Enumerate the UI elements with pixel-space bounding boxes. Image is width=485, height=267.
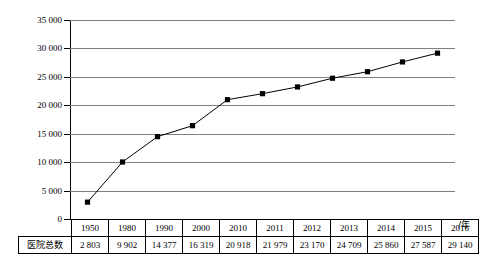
- data-point-marker: [155, 134, 160, 139]
- y-tick-label-10000: 10 000: [0, 158, 62, 167]
- table-row-header-hospital-total: 医院总数: [19, 237, 72, 254]
- data-point-marker: [225, 97, 230, 102]
- table-cell-year: 1950: [72, 220, 109, 237]
- y-tick-label-15000: 15 000: [0, 130, 62, 139]
- table-cell-value: 25 860: [368, 237, 405, 254]
- table-cell-value: 21 979: [257, 237, 294, 254]
- table-cell-value: 16 319: [183, 237, 220, 254]
- table-cell-year: 2014: [368, 220, 405, 237]
- x-axis-unit-label: /年: [458, 221, 470, 230]
- table-cell-year: 2013: [331, 220, 368, 237]
- y-tick-label-20000: 20 000: [0, 101, 62, 110]
- table-cell-year: 1990: [146, 220, 183, 237]
- table-cell-year: 2000: [183, 220, 220, 237]
- series-line-path: [88, 53, 438, 202]
- series-hospital-total: [70, 20, 455, 218]
- table-cell-value: 23 170: [294, 237, 331, 254]
- table-cell-value: 20 918: [220, 237, 257, 254]
- table-cell-year: 2011: [257, 220, 294, 237]
- y-tick-label-30000: 30 000: [0, 44, 62, 53]
- table-row-years: 1950198019902000201020112012201320142015…: [19, 220, 479, 237]
- y-tick-label-5000: 5 000: [0, 187, 62, 196]
- table-corner-blank: [19, 220, 72, 237]
- y-tick-label-25000: 25 000: [0, 73, 62, 82]
- table-cell-year: 2015: [405, 220, 442, 237]
- table-cell-value: 2 803: [72, 237, 109, 254]
- data-point-marker: [435, 51, 440, 56]
- data-point-marker: [260, 91, 265, 96]
- plot-area: [70, 20, 455, 218]
- table-cell-value: 29 140: [442, 237, 479, 254]
- table-cell-value: 14 377: [146, 237, 183, 254]
- data-point-marker: [400, 59, 405, 64]
- data-point-marker: [295, 84, 300, 89]
- table-row-values: 医院总数 2 8039 90214 37716 31920 91821 9792…: [19, 237, 479, 254]
- data-point-marker: [330, 76, 335, 81]
- data-point-marker: [85, 200, 90, 205]
- table-cell-year: 2012: [294, 220, 331, 237]
- data-point-marker: [120, 159, 125, 164]
- hospital-count-chart-figure: 35 000 30 000 25 000 20 000 15 000 10 00…: [0, 0, 485, 267]
- table-cell-value: 27 587: [405, 237, 442, 254]
- table-cell-year: 1980: [109, 220, 146, 237]
- data-table: 1950198019902000201020112012201320142015…: [18, 219, 479, 254]
- y-tick-label-35000: 35 000: [0, 16, 62, 25]
- table-cell-year: 2010: [220, 220, 257, 237]
- table-cell-value: 24 709: [331, 237, 368, 254]
- data-point-marker: [365, 69, 370, 74]
- series-markers-group: [85, 51, 440, 205]
- table-cell-value: 9 902: [109, 237, 146, 254]
- data-point-marker: [190, 123, 195, 128]
